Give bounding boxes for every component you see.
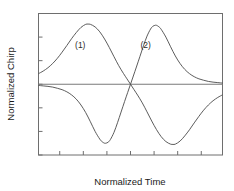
- chart-figure: (1)(2) Normalized Time Normalized Chirp: [0, 0, 234, 191]
- normalized-chirp-plot: (1)(2) Normalized Time Normalized Chirp: [0, 0, 234, 191]
- figure-background: [0, 0, 234, 191]
- curve-label-1: (1): [75, 40, 86, 50]
- x-axis-title: Normalized Time: [94, 176, 165, 187]
- curve-label-2: (2): [140, 40, 151, 50]
- y-axis-title: Normalized Chirp: [5, 47, 16, 120]
